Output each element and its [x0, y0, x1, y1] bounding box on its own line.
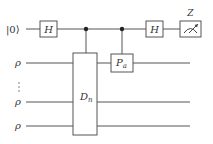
control-dot-dn — [84, 27, 88, 31]
measurement-gate: Z — [180, 8, 201, 37]
register-input-label-3: ρ — [14, 120, 21, 131]
gate-label: H — [43, 24, 53, 35]
hadamard-gate-2: H — [146, 21, 163, 37]
register-input-label-1: ρ — [14, 57, 21, 68]
hadamard-gate-1: H — [40, 21, 57, 37]
control-dot-pa — [120, 27, 124, 31]
register-input-label-2: ρ — [14, 96, 21, 107]
ancilla-input-label: |0⟩ — [6, 24, 20, 36]
pa-gate: Pa — [111, 54, 133, 72]
measurement-basis-label: Z — [186, 8, 194, 18]
dn-gate: Dn — [73, 53, 97, 135]
gate-label: H — [149, 24, 159, 35]
quantum-circuit: H Dn Pa H Z |0⟩ ρ ρ ρ — [0, 0, 213, 144]
ellipsis-vertical — [18, 82, 19, 91]
